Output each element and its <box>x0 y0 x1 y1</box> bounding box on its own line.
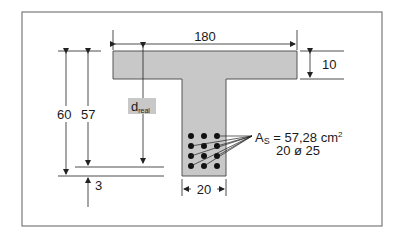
total-height-label: 60 <box>57 107 71 122</box>
t-beam-diagram: 180 10 dreal 60 57 3 20 AS = 57,28 cm2 2… <box>0 0 403 239</box>
web-width-label: 20 <box>197 182 211 197</box>
cover-label: 3 <box>95 178 102 193</box>
flange-thickness-label: 10 <box>322 57 336 72</box>
effective-depth-label: 57 <box>81 107 95 122</box>
flange-width-label: 180 <box>194 29 216 44</box>
bar-spec-label: 20 ø 25 <box>276 143 320 158</box>
